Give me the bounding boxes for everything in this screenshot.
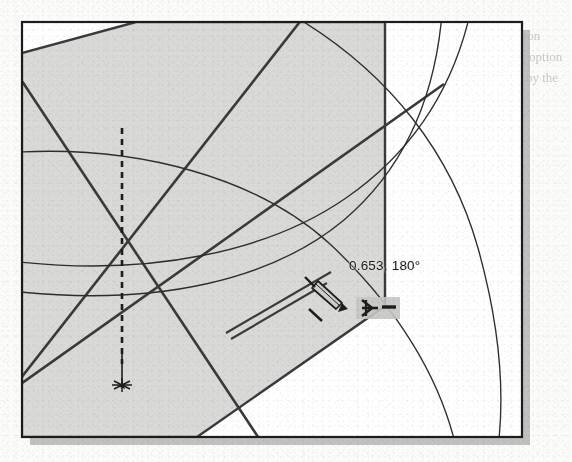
cad-figure <box>0 0 572 462</box>
drawing-canvas: of a Direction with Polar option are cre… <box>0 0 572 462</box>
measurement-readout: 0.653, 180° <box>349 258 420 273</box>
dimension-snap-cursor[interactable] <box>356 297 400 319</box>
